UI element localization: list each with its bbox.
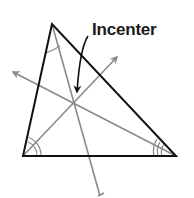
angle-mark-top (46, 46, 60, 53)
triangle (23, 24, 176, 156)
incenter-pointer-arrow (77, 36, 88, 92)
incenter-label: Incenter (92, 20, 157, 40)
bisector-bottom-left (23, 57, 117, 156)
angle-mark-bottom-right-2 (157, 142, 160, 156)
angle-mark-bottom-right-3 (153, 139, 157, 156)
angle-bisectors (13, 24, 176, 196)
